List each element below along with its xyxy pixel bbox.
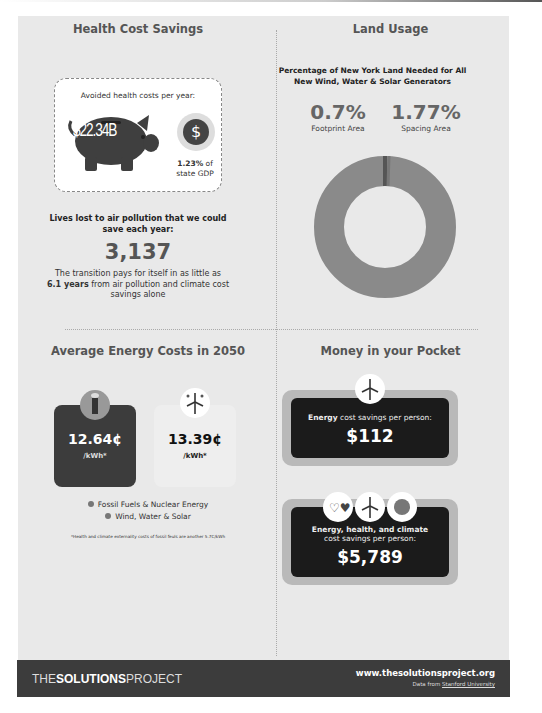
wind-turbine-icon xyxy=(355,492,385,522)
wind-turbine-icon xyxy=(180,388,210,418)
dollar-coin-icon: $ xyxy=(177,113,215,151)
combined-savings-sublabel: cost savings per person: xyxy=(291,534,449,544)
energy-legend: Fossil Fuels & Nuclear Energy Wind, Wate… xyxy=(38,499,258,523)
avoided-health-costs-label: Avoided health costs per year: xyxy=(55,91,221,100)
wws-unit: /kWh* xyxy=(154,452,236,460)
horizontal-divider xyxy=(65,329,478,330)
infographic-page: Health Cost Savings Avoided health costs… xyxy=(18,16,509,660)
land-donut-chart xyxy=(310,152,460,302)
health-section-title: Health Cost Savings xyxy=(38,22,238,36)
legend-wws: Wind, Water & Solar xyxy=(38,511,258,523)
payback-text: The transition pays for itself in as lit… xyxy=(38,269,238,301)
health-savings-amount: $22.34B xyxy=(73,119,116,141)
money-section-title: Money in your Pocket xyxy=(288,344,493,358)
fossil-unit: /kWh* xyxy=(54,452,136,460)
website-link[interactable]: www.thesolutionsproject.org xyxy=(356,668,495,678)
energy-savings-label: Energy cost savings per person: xyxy=(291,413,449,423)
globe-icon xyxy=(387,492,417,522)
energy-section-title: Average Energy Costs in 2050 xyxy=(38,344,258,358)
vertical-divider xyxy=(276,30,277,656)
lives-label: Lives lost to air pollution that we coul… xyxy=(38,213,238,235)
avoided-health-costs-box: Avoided health costs per year: $22.34B $… xyxy=(54,78,222,192)
land-section-title: Land Usage xyxy=(288,22,493,36)
brand-logo: THESOLUTIONSPROJECT xyxy=(32,672,182,686)
top-edge xyxy=(0,0,542,2)
spacing-stat: 1.77% Spacing Area xyxy=(386,100,466,133)
smokestack-icon xyxy=(80,390,110,420)
heart-health-icon: ♡♥ xyxy=(323,492,353,522)
gdp-percentage: 1.23% ofstate GDP xyxy=(167,159,223,179)
footprint-stat: 0.7% Footprint Area xyxy=(298,100,378,133)
wind-turbine-icon xyxy=(355,374,385,404)
energy-footnote: *Health and climate externality costs of… xyxy=(48,534,248,540)
footer-bar: THESOLUTIONSPROJECT www.thesolutionsproj… xyxy=(17,660,510,697)
combined-savings-value: $5,789 xyxy=(291,547,449,567)
legend-fossil: Fossil Fuels & Nuclear Energy xyxy=(38,499,258,511)
wws-price: 13.39¢ xyxy=(154,431,236,447)
fossil-price: 12.64¢ xyxy=(54,431,136,447)
land-subtitle: Percentage of New York Land Needed for A… xyxy=(270,65,475,87)
energy-savings-value: $112 xyxy=(291,426,449,446)
stanford-link[interactable]: Stanford University xyxy=(442,681,495,687)
lives-value: 3,137 xyxy=(38,240,238,264)
data-credit: Data from Stanford University xyxy=(413,681,495,687)
